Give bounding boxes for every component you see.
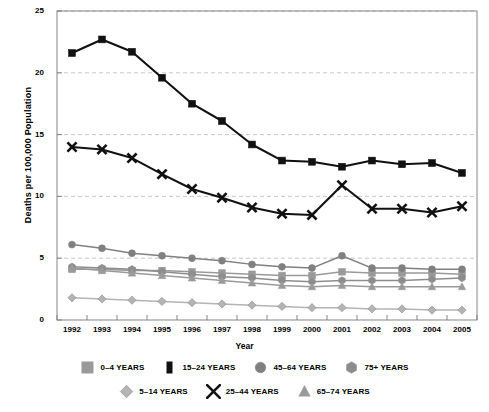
- square-swatch-icon: [80, 360, 95, 375]
- legend-row: 5–14 YEARS25–44 YEARS65–74 YEARS: [0, 379, 489, 403]
- legend-label: 45–64 YEARS: [273, 363, 326, 372]
- data-point-square-marker: [249, 141, 256, 148]
- data-point-hexagon-marker: [429, 275, 436, 283]
- data-point-square-marker: [219, 118, 226, 125]
- data-point-square-marker: [309, 158, 316, 165]
- data-point-circle-marker: [309, 265, 316, 272]
- data-point-square-marker: [69, 50, 76, 57]
- data-point-x-marker: [337, 181, 346, 190]
- triangle-swatch-icon: [297, 384, 312, 399]
- data-point-diamond-marker: [128, 296, 136, 304]
- data-point-diamond-marker: [278, 302, 286, 310]
- data-point-circle-marker: [159, 252, 166, 259]
- data-point-triangle-marker: [298, 385, 310, 396]
- x-swatch-icon: [206, 384, 221, 399]
- data-point-diamond-marker: [158, 297, 166, 305]
- legend-label: 0–4 YEARS: [100, 363, 144, 372]
- legend-item-45-64-years[interactable]: 45–64 YEARS: [253, 360, 326, 375]
- data-point-square-marker: [339, 163, 346, 170]
- data-point-diamond-marker: [121, 385, 134, 398]
- data-point-circle-marker: [279, 263, 286, 270]
- legend-row: 0–4 YEARS15–24 YEARS45–64 YEARS75+ YEARS: [0, 355, 489, 379]
- data-point-diamond-marker: [98, 295, 106, 303]
- data-point-diamond-marker: [188, 299, 196, 307]
- data-point-square-marker: [99, 36, 106, 43]
- data-point-square-marker: [459, 170, 466, 177]
- data-point-circle-marker: [189, 255, 196, 262]
- data-point-square-marker: [159, 74, 166, 81]
- data-point-square-marker: [369, 157, 376, 164]
- diamond-swatch-icon: [119, 384, 134, 399]
- data-point-square-marker: [339, 268, 346, 275]
- data-point-diamond-marker: [248, 301, 256, 309]
- legend-item-65-74-years[interactable]: 65–74 YEARS: [297, 384, 370, 399]
- legend-item-0-4-years[interactable]: 0–4 YEARS: [80, 360, 144, 375]
- legend-label: 5–14 YEARS: [139, 387, 187, 396]
- data-point-diamond-marker: [68, 294, 76, 302]
- data-point-circle-marker: [219, 257, 226, 264]
- data-point-diamond-marker: [308, 304, 316, 312]
- square-swatch-icon: [162, 360, 177, 375]
- legend-item-5-14-years[interactable]: 5–14 YEARS: [119, 384, 187, 399]
- legend-item-75-years[interactable]: 75+ YEARS: [344, 360, 408, 375]
- data-point-hexagon-marker: [347, 361, 357, 373]
- data-point-circle-marker: [129, 250, 136, 257]
- circle-swatch-icon: [253, 360, 268, 375]
- data-point-circle-marker: [69, 241, 76, 248]
- data-point-circle-marker: [99, 245, 106, 252]
- data-point-circle-marker: [459, 266, 466, 273]
- chart-legend: 0–4 YEARS15–24 YEARS45–64 YEARS75+ YEARS…: [0, 355, 489, 403]
- legend-label: 15–24 YEARS: [182, 363, 235, 372]
- series-line-15-24-years: [72, 39, 462, 172]
- data-point-square-marker: [129, 48, 136, 55]
- data-point-circle-marker: [339, 252, 346, 259]
- legend-item-15-24-years[interactable]: 15–24 YEARS: [162, 360, 235, 375]
- data-point-circle-marker: [399, 265, 406, 272]
- data-point-diamond-marker: [458, 306, 466, 314]
- data-point-circle-marker: [256, 362, 267, 373]
- data-point-square-marker: [189, 100, 196, 107]
- data-point-x-marker: [157, 170, 166, 179]
- data-point-circle-marker: [369, 265, 376, 272]
- data-point-x-marker: [206, 384, 220, 398]
- plot-area: [0, 0, 489, 412]
- data-point-diamond-marker: [398, 305, 406, 313]
- data-point-circle-marker: [429, 266, 436, 273]
- data-point-diamond-marker: [218, 300, 226, 308]
- data-point-square-marker: [429, 160, 436, 167]
- legend-item-25-44-years[interactable]: 25–44 YEARS: [206, 384, 279, 399]
- data-point-square-marker: [399, 161, 406, 168]
- chart-container: Deaths per 100,000 Population Year 05101…: [0, 0, 489, 412]
- legend-label: 75+ YEARS: [364, 363, 408, 372]
- data-point-hexagon-marker: [459, 274, 466, 282]
- data-point-square-marker: [279, 157, 286, 164]
- data-point-diamond-marker: [368, 305, 376, 313]
- data-point-circle-marker: [249, 261, 256, 268]
- hexagon-swatch-icon: [344, 360, 359, 375]
- legend-label: 65–74 YEARS: [317, 387, 370, 396]
- data-point-diamond-marker: [428, 306, 436, 314]
- legend-label: 25–44 YEARS: [226, 387, 279, 396]
- data-point-diamond-marker: [338, 304, 346, 312]
